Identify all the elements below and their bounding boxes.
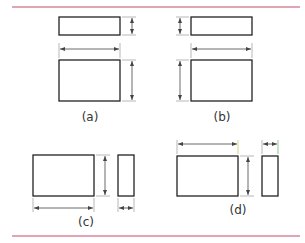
panel-c-label: (c) xyxy=(78,215,94,229)
panel-d-label: (d) xyxy=(230,203,247,217)
panel-c xyxy=(33,155,134,212)
dimensioning-figure xyxy=(0,0,305,243)
panel-b xyxy=(176,17,252,101)
panel-a-label: (a) xyxy=(82,110,99,124)
panel-a xyxy=(59,17,136,101)
panel-b-label: (b) xyxy=(214,110,231,124)
panel-d xyxy=(177,140,278,196)
